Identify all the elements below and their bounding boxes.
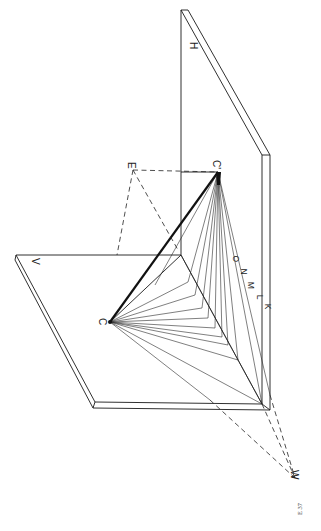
label-h: H [188,42,199,49]
label-m: M [246,282,256,289]
label-c-prime: C' [211,160,222,169]
label-w: W [289,470,300,480]
projection-diagram: H V C C' E W K L M N O E 37 [0,0,321,531]
label-o: O [231,255,241,262]
label-e: E [126,162,137,169]
label-v: V [30,258,41,265]
label-n: N [239,269,249,275]
figure-caption: E 37 [296,502,303,515]
label-c: C [97,318,108,325]
label-l: L [255,295,265,300]
label-k: K [263,304,273,310]
line-c-cprime [110,172,218,322]
